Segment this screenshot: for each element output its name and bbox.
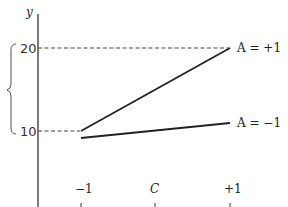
series-a-plus-line	[81, 48, 230, 131]
x-tick-label-neg: −1	[75, 182, 93, 196]
series-a-minus-label: A = −1	[236, 116, 281, 130]
series-a-plus-label: A = +1	[236, 41, 281, 55]
interaction-diagram: 20 10 y −1 C +1 A = +1 A = −1	[0, 0, 288, 207]
x-tick-label-mid: C	[150, 182, 159, 196]
y-axis-label: y	[25, 5, 33, 19]
x-tick-label-pos: +1	[224, 182, 242, 196]
y-tick-label-20: 20	[20, 41, 37, 56]
series-a-minus-line	[81, 123, 230, 138]
brace-icon	[7, 44, 16, 134]
y-tick-label-10: 10	[20, 124, 37, 139]
